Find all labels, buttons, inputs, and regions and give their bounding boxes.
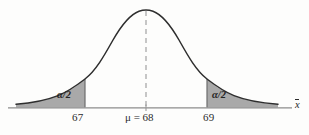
x-bar-glyph: x [295,100,300,111]
right-alpha-label: α/2 [212,90,226,101]
left-alpha-label: α/2 [57,90,71,101]
x-bar-axis-label: x [295,100,300,111]
bell-curve [16,10,278,104]
tick-label-69: 69 [203,112,214,123]
tick-label-mean: μ = 68 [125,112,154,123]
curve-canvas [0,0,309,135]
normal-distribution-figure: α/2 α/2 67 μ = 68 69 x [0,0,309,135]
tick-label-67: 67 [72,112,83,123]
